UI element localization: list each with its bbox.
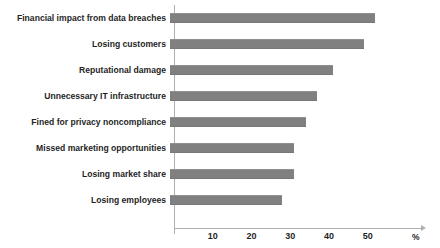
bar (170, 169, 294, 179)
category-label: Losing employees (0, 195, 170, 205)
bar (170, 39, 364, 49)
bar-track (170, 83, 440, 109)
bar (170, 195, 282, 205)
bar-track (170, 57, 440, 83)
x-axis-unit-label: % (412, 232, 420, 242)
x-tick-label: 20 (237, 231, 267, 241)
category-label: Financial impact from data breaches (0, 13, 170, 23)
bar-row: Reputational damage (0, 57, 440, 83)
bar (170, 117, 306, 127)
bar-track (170, 187, 440, 213)
category-label: Missed marketing opportunities (0, 143, 170, 153)
x-tick-label: 50 (353, 231, 383, 241)
bar (170, 13, 375, 23)
bar-row: Losing employees (0, 187, 440, 213)
category-label: Losing market share (0, 169, 170, 179)
x-tick-label: 30 (275, 231, 305, 241)
bar-rows: Financial impact from data breachesLosin… (0, 0, 440, 228)
bar-chart: Financial impact from data breachesLosin… (0, 0, 440, 248)
bar-track (170, 135, 440, 161)
x-axis-line (174, 228, 424, 229)
bar (170, 143, 294, 153)
bar-track (170, 31, 440, 57)
bar-track (170, 161, 440, 187)
category-label: Losing customers (0, 39, 170, 49)
bar-track (170, 5, 440, 31)
bar-row: Losing market share (0, 161, 440, 187)
x-axis-tick-labels: 1020304050 (0, 230, 440, 248)
bar-row: Missed marketing opportunities (0, 135, 440, 161)
bar-row: Unnecessary IT infrastructure (0, 83, 440, 109)
category-label: Reputational damage (0, 65, 170, 75)
bar-row: Losing customers (0, 31, 440, 57)
category-label: Unnecessary IT infrastructure (0, 91, 170, 101)
x-tick-label: 10 (198, 231, 228, 241)
x-tick-label: 40 (314, 231, 344, 241)
bar-row: Financial impact from data breaches (0, 5, 440, 31)
bar-track (170, 109, 440, 135)
category-label: Fined for privacy noncompliance (0, 117, 170, 127)
bar (170, 65, 333, 75)
bar-row: Fined for privacy noncompliance (0, 109, 440, 135)
bar (170, 91, 317, 101)
